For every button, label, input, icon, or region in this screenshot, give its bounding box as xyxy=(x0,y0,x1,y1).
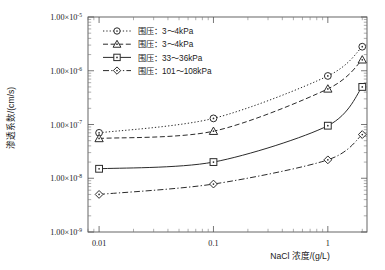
data-point-center xyxy=(327,125,329,127)
legend-item-4[interactable]: 围压：101～108kPa xyxy=(103,67,212,76)
chart-legend: 围压：3～4kPa围压：3～4kPa围压：33～36kPa围压：101～108k… xyxy=(103,27,212,76)
y-tick-label: 1.00×10-5 xyxy=(50,12,82,22)
data-series-group xyxy=(95,43,366,198)
data-point-center xyxy=(213,161,215,163)
series-line xyxy=(99,87,362,169)
data-point-center xyxy=(327,159,329,161)
x-tick-label: 0.1 xyxy=(208,239,218,248)
y-tick-label: 1.00×10-6 xyxy=(50,66,82,76)
legend-label: 围压：101～108kPa xyxy=(138,67,212,76)
data-point-center xyxy=(213,130,215,132)
series-4 xyxy=(95,131,366,199)
x-axis-ticks xyxy=(88,17,362,232)
data-point-center xyxy=(98,168,100,170)
x-axis-title: NaCl 浓度/(g/L) xyxy=(270,250,330,261)
data-point-center xyxy=(116,57,118,59)
data-point-center xyxy=(361,59,363,61)
data-point-center xyxy=(361,86,363,88)
legend-label: 围压：33～36kPa xyxy=(138,54,203,63)
y-axis-title: 渗透系数/(cm/s) xyxy=(5,87,16,149)
y-tick-label: 1.00×10-8 xyxy=(50,173,82,183)
data-point-center xyxy=(116,30,118,32)
x-tick-label: 0.01 xyxy=(92,239,106,248)
data-point-center xyxy=(213,118,215,120)
data-point-center xyxy=(327,75,329,77)
legend-item-3[interactable]: 围压：33～36kPa xyxy=(103,54,203,63)
data-point-center xyxy=(116,43,118,45)
legend-label: 围压：3～4kPa xyxy=(138,40,194,49)
data-point-center xyxy=(98,194,100,196)
data-point-center xyxy=(361,134,363,136)
series-line xyxy=(99,135,362,195)
data-point-center xyxy=(361,46,363,48)
data-point-center xyxy=(98,138,100,140)
data-point-center xyxy=(327,88,329,90)
x-tick-label: 1 xyxy=(326,239,330,248)
y-tick-label: 1.00×10-7 xyxy=(50,119,82,129)
legend-label: 围压：3～4kPa xyxy=(138,27,194,36)
data-point-center xyxy=(116,70,118,72)
legend-item-2[interactable]: 围压：3～4kPa xyxy=(103,40,194,49)
data-point-center xyxy=(213,183,215,185)
permeability-vs-nacl-chart: 1.00×10-91.00×10-81.00×10-71.00×10-61.00… xyxy=(0,0,385,270)
legend-item-1[interactable]: 围压：3～4kPa xyxy=(103,27,194,36)
x-axis-tick-labels: 0.010.11 xyxy=(92,239,330,248)
chart-figure: 1.00×10-91.00×10-81.00×10-71.00×10-61.00… xyxy=(0,0,385,270)
y-axis-tick-labels: 1.00×10-91.00×10-81.00×10-71.00×10-61.00… xyxy=(50,12,82,237)
y-tick-label: 1.00×10-9 xyxy=(50,227,82,237)
